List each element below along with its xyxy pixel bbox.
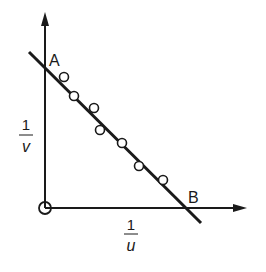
x-label-numerator: 1	[127, 216, 135, 233]
data-point	[159, 176, 168, 185]
data-points	[60, 73, 168, 185]
data-point	[135, 162, 144, 171]
data-point	[70, 92, 79, 101]
x-axis-arrow-icon	[233, 204, 247, 212]
data-point	[118, 139, 127, 148]
best-fit-line	[29, 52, 201, 223]
reciprocal-plot: A B 1 v 1 u	[0, 0, 266, 272]
data-point	[90, 104, 99, 113]
x-label-denominator: u	[127, 237, 136, 254]
label-a: A	[49, 52, 60, 69]
data-point	[60, 73, 69, 82]
y-label-denominator: v	[22, 138, 31, 155]
label-b: B	[188, 189, 199, 206]
y-axis-arrow-icon	[41, 12, 49, 26]
data-point	[96, 126, 105, 135]
y-label-numerator: 1	[22, 116, 30, 133]
